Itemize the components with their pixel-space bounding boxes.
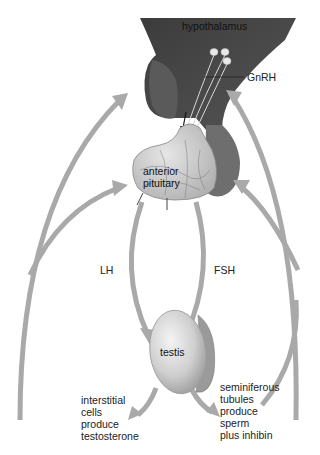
lh-label: LH [100, 264, 113, 276]
fsh-label: FSH [214, 264, 235, 276]
right-caption-line: plus inhibin [220, 429, 280, 441]
testis-label: testis [160, 346, 185, 358]
left-caption-line: produce [81, 418, 139, 430]
left-caption: interstitial cells produce testosterone [81, 394, 139, 442]
left-caption-line: testosterone [81, 430, 139, 442]
left-caption-line: cells [81, 406, 139, 418]
left-caption-line: interstitial [81, 394, 139, 406]
anterior-pituitary-label-line1: anterior [143, 165, 180, 177]
right-caption-line: produce [220, 405, 280, 417]
right-caption: seminiferous tubules produce sperm plus … [220, 381, 280, 441]
hypothalamus-label: hypothalamus [182, 20, 247, 32]
anterior-pituitary-label: anterior pituitary [143, 165, 180, 189]
right-caption-line: tubules [220, 393, 280, 405]
anterior-pituitary-label-line2: pituitary [143, 177, 180, 189]
gnrh-label: GnRH [247, 71, 276, 83]
right-caption-line: seminiferous [220, 381, 280, 393]
right-caption-line: sperm [220, 417, 280, 429]
